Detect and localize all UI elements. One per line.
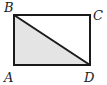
vertex-label-b: B	[3, 0, 14, 15]
vertex-label-c: C	[93, 8, 103, 23]
vertex-label-a: A	[3, 70, 13, 85]
vertex-label-d: D	[83, 70, 95, 85]
rectangle-diagram: B C A D	[0, 0, 107, 85]
